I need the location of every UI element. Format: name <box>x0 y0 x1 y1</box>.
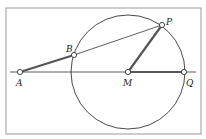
label-A: A <box>15 78 23 88</box>
label-Q: Q <box>186 78 194 88</box>
label-P: P <box>165 17 173 27</box>
label-B: B <box>65 44 73 54</box>
point-P <box>159 22 164 27</box>
label-M: M <box>122 78 133 88</box>
point-M <box>125 69 130 74</box>
segment-AB-thick <box>20 55 74 72</box>
segment-BP <box>74 25 162 55</box>
geometry-diagram: A B P M Q <box>0 0 206 139</box>
point-A <box>17 69 22 74</box>
point-Q <box>181 69 186 74</box>
segment-MP-thick <box>128 25 162 72</box>
